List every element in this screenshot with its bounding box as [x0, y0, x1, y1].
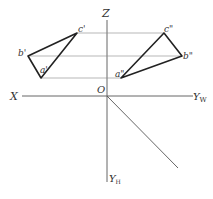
point-label-b-side: b" — [183, 51, 193, 61]
yw-axis-label: YW — [193, 91, 208, 104]
miter-line — [107, 96, 178, 168]
point-label-c-front: c' — [78, 24, 86, 34]
z-axis-label: Z — [101, 7, 110, 20]
point-label-a-front: a' — [40, 65, 48, 75]
point-label-a-side: a" — [115, 69, 125, 79]
point-label-b-front: b' — [18, 48, 26, 58]
yh-axis-label: YH — [109, 173, 121, 185]
origin-label: O — [97, 84, 105, 95]
point-label-c-side: c" — [164, 24, 173, 34]
projection-diagram: Z X O YW YH c' b' a' c" b" a" — [0, 0, 213, 199]
front-view-triangle — [28, 33, 77, 78]
side-view-triangle — [121, 33, 182, 78]
x-axis-label: X — [9, 90, 19, 103]
